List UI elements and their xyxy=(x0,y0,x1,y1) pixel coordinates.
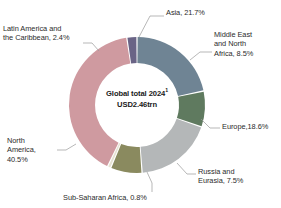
donut-chart: Asia, 21.7% Middle East and North Africa… xyxy=(0,0,281,208)
slice-label-russia: Russia and Eurasia, 7.5% xyxy=(198,167,278,186)
leader-line-russia xyxy=(177,163,196,174)
leader-line-mena xyxy=(190,52,212,60)
leader-line-subsaharan xyxy=(147,172,152,192)
leader-line-asia xyxy=(139,16,164,37)
leader-line-europe xyxy=(201,119,220,128)
leader-line-latin-america xyxy=(83,43,99,51)
donut-slice-europe[interactable] xyxy=(141,119,202,173)
slice-label-asia: Asia, 21.7% xyxy=(166,8,205,17)
slice-label-mena: Middle East and North Africa, 8.5% xyxy=(214,30,278,58)
center-total-line2: USD2.46trn xyxy=(117,100,157,109)
slice-label-europe: Europe,18.6% xyxy=(222,122,280,131)
donut-center-label: Global total 20241 USD2.46trn xyxy=(89,88,185,110)
leader-line-north-america xyxy=(57,144,76,150)
center-total-line1: Global total 2024 xyxy=(106,89,165,98)
donut-slice-russia-and-eurasia[interactable] xyxy=(111,144,141,173)
slice-label-sub-saharan: Sub-Saharan Africa, 0.8% xyxy=(63,193,193,202)
slice-label-north-america: North America, 40.5% xyxy=(7,136,59,164)
center-footnote-marker: 1 xyxy=(165,87,168,93)
slice-label-latin-america: Latin America and the Caribbean, 2.4% xyxy=(3,24,91,43)
